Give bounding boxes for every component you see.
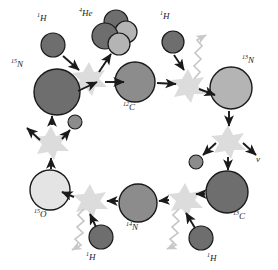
arrow-decay-to-neutrino-left	[27, 128, 40, 140]
gamma-ray-bottom-right	[167, 209, 179, 249]
label-h-bottom-right: 1H	[207, 254, 217, 263]
gamma-ray-bottom-left	[72, 209, 84, 250]
proton-h-top-left	[41, 33, 65, 57]
nucleus-n14	[119, 184, 157, 222]
label-n13: 13N	[242, 56, 254, 65]
label-h-top-left-symbol: H	[40, 13, 47, 23]
nucleus-o15	[30, 170, 70, 210]
label-n13-symbol: N	[248, 55, 254, 65]
label-n15: 15N	[11, 60, 23, 69]
proton-h-bottom-right	[189, 226, 213, 250]
label-c13-symbol: C	[239, 211, 245, 221]
label-o15-symbol: O	[40, 209, 47, 219]
label-h-top-right-symbol: H	[163, 11, 170, 21]
label-he4: 4He	[79, 9, 93, 18]
label-h-bottom-left: 1H	[86, 253, 96, 262]
arrow-h-to-fusion3	[186, 213, 195, 228]
label-n15-symbol: N	[17, 59, 23, 69]
label-h-bottom-left-symbol: H	[89, 252, 96, 262]
label-n14: 14N	[126, 223, 138, 232]
label-c12: 12C	[123, 103, 135, 112]
arrow-h-to-fusion2	[174, 55, 184, 70]
label-o15: 15O	[34, 210, 47, 219]
label-h-top-right: 1H	[160, 12, 170, 21]
arrow-decay-to-positron-right	[203, 143, 216, 155]
nucleus-c13	[206, 171, 248, 213]
arrow-fusion1-to-he4	[99, 54, 111, 72]
helium-4-cluster	[92, 10, 137, 55]
arrow-c12-to-fusion2	[157, 83, 176, 84]
label-neutrino-right-symbol: ν	[256, 154, 260, 164]
positron-left	[68, 115, 82, 129]
cno-cycle-diagram: 1H 4He 1H 15N 13N 12C ν 15O 14N 13C 1H 1…	[0, 0, 278, 270]
label-he4-symbol: He	[82, 8, 93, 18]
reaction-star-decay-o15	[34, 126, 69, 160]
reaction-star-fusion-c13-h	[168, 183, 203, 217]
gamma-ray-top-right	[194, 35, 206, 79]
arrow-h-to-fusion1	[63, 56, 79, 70]
reaction-star-fusion-n14-h	[73, 184, 108, 218]
proton-h-bottom-left	[89, 225, 113, 249]
arrow-decay-to-positron-left	[62, 130, 70, 139]
arrow-fusion3-to-n14	[159, 200, 169, 201]
nucleus-n13	[210, 67, 252, 109]
proton-h-top-right	[162, 31, 184, 53]
reaction-star-fusion-c12-h	[171, 69, 206, 103]
label-h-top-left: 1H	[37, 14, 47, 23]
label-neutrino-right: ν	[256, 155, 260, 164]
reaction-star-decay-n13	[211, 125, 246, 159]
nucleus-n15	[34, 69, 80, 115]
label-h-bottom-right-symbol: H	[210, 253, 217, 263]
label-n14-symbol: N	[132, 222, 138, 232]
diagram-canvas	[0, 0, 278, 270]
label-c12-symbol: C	[129, 102, 135, 112]
positron-right	[189, 155, 203, 169]
label-c13: 13C	[233, 212, 245, 221]
